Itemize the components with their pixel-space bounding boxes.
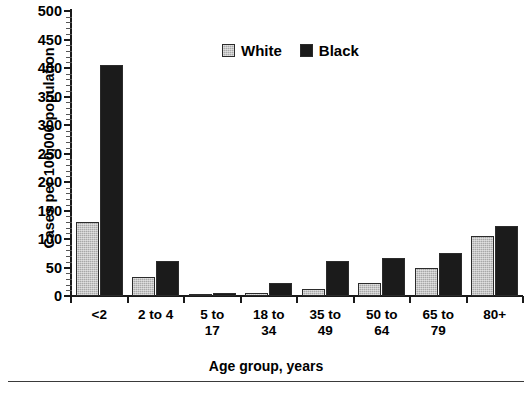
x-tick	[70, 296, 72, 303]
x-tick	[522, 296, 524, 303]
x-tick	[183, 296, 185, 303]
y-tick-label: 50	[0, 261, 62, 276]
y-tick-label: 450	[0, 33, 62, 48]
x-tick	[296, 296, 298, 303]
x-tick	[409, 296, 411, 303]
y-tick-label: 200	[0, 175, 62, 190]
bar-black-7	[495, 226, 518, 296]
y-tick-label: 150	[0, 204, 62, 219]
bar-white-6	[415, 268, 438, 297]
y-tick-label: 0	[0, 289, 62, 304]
bar-black-5	[382, 258, 405, 296]
bar-white-1	[132, 277, 155, 296]
bar-black-2	[213, 293, 236, 296]
bar-black-4	[326, 261, 349, 296]
x-tick	[240, 296, 242, 303]
bar-white-4	[302, 289, 325, 296]
footer-divider	[8, 381, 524, 382]
y-tick-label: 350	[0, 90, 62, 105]
bar-white-2	[189, 294, 212, 296]
y-tick-label: 250	[0, 147, 62, 162]
chart-figure: Cases per 100,000 population 05010015020…	[0, 0, 532, 395]
y-tick-label: 300	[0, 118, 62, 133]
x-tick	[127, 296, 129, 303]
x-tick-label: 80+	[461, 307, 530, 323]
x-tick	[466, 296, 468, 303]
bar-black-0	[100, 65, 123, 296]
bar-black-6	[439, 253, 462, 296]
plot-area	[71, 11, 523, 296]
y-tick-label: 400	[0, 61, 62, 76]
bar-black-3	[269, 283, 292, 296]
y-tick-label: 100	[0, 232, 62, 247]
x-tick	[353, 296, 355, 303]
bar-white-5	[358, 283, 381, 296]
bar-black-1	[156, 261, 179, 296]
x-axis-title: Age group, years	[0, 358, 532, 374]
y-tick-label: 500	[0, 4, 62, 19]
bar-white-0	[76, 222, 99, 296]
bar-white-3	[245, 293, 268, 296]
bar-white-7	[471, 236, 494, 296]
